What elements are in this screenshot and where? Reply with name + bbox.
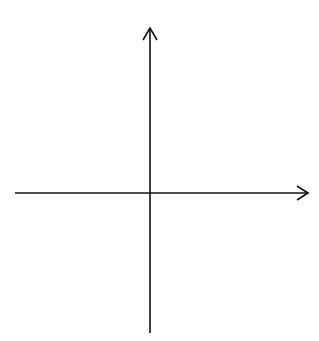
coordinate-plane xyxy=(0,0,319,341)
